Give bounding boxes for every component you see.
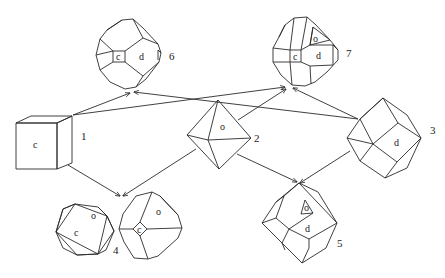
face-label-o: o [220, 121, 225, 132]
arrow-1-to-6 [73, 93, 130, 115]
face-label-o: o [91, 210, 96, 221]
crystal-forms-diagram: c 1 o 2 d 3 c o [0, 0, 445, 278]
arrows [68, 87, 358, 196]
face-label-c: c [33, 139, 38, 150]
crystal-6-combination: c d 6 [96, 19, 175, 89]
arrow-2-to-4 [123, 149, 196, 196]
crystal-4-cuboctahedron-left: c o [56, 204, 114, 255]
face-label-d: d [394, 137, 399, 148]
face-label-d: d [316, 50, 321, 61]
arrow-3-to-5 [300, 151, 350, 183]
crystal-5-combination: o d 5 [262, 183, 343, 263]
crystal-number-7: 7 [346, 47, 352, 59]
face-label-c: c [74, 227, 79, 238]
face-label-d: d [139, 51, 144, 62]
crystal-4-cuboctahedron-right: c o 4 [113, 192, 182, 259]
face-label-d: d [305, 223, 310, 234]
face-label-o: o [304, 202, 309, 213]
face-label-o: o [313, 33, 318, 44]
face-label-c: c [293, 51, 298, 62]
crystal-number-5: 5 [337, 237, 343, 249]
arrow-3-to-7 [293, 88, 358, 119]
arrow-2-to-5 [237, 154, 297, 182]
arrow-2-to-7 [238, 89, 286, 120]
arrow-1-to-4 [68, 165, 120, 196]
crystal-1-cube: c 1 [16, 116, 87, 169]
crystal-3-dodecahedron: d 3 [347, 98, 436, 178]
arrow-1-to-7 [73, 87, 285, 115]
crystal-number-1: 1 [81, 130, 87, 142]
crystal-number-3: 3 [430, 124, 436, 136]
crystal-2-octahedron: o 2 [187, 100, 260, 169]
crystal-7-combination: o c d 7 [273, 17, 352, 86]
crystal-number-4: 4 [113, 244, 119, 256]
face-label-c: c [116, 51, 121, 62]
face-label-c: c [137, 224, 142, 235]
crystal-number-6: 6 [169, 50, 175, 62]
face-label-o: o [156, 206, 161, 217]
crystal-number-2: 2 [254, 132, 260, 144]
